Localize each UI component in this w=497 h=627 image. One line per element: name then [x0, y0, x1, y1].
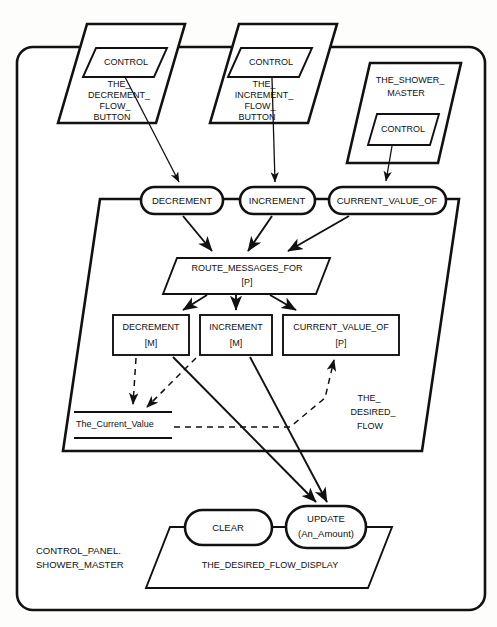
attribute-label: The_Current_Value: [76, 419, 154, 429]
op-current-value-of-label: CURRENT_VALUE_OF: [337, 195, 438, 206]
increment-button-name-3: FLOW_: [244, 101, 276, 111]
op-update-label-2: (An_Amount): [298, 528, 354, 539]
diagram-svg: CONTROL THE_ DECREMENT_ FLOW_ BUTTON CON…: [0, 0, 497, 627]
op-increment-label: INCREMENT: [249, 195, 306, 206]
desired-flow-name-1: THE_: [357, 393, 381, 403]
desired-flow-display-name: THE_DESIRED_FLOW_DISPLAY: [202, 560, 338, 570]
desired-flow-name-3: FLOW: [357, 421, 384, 431]
method-decrement-label-1: DECREMENT: [122, 322, 180, 332]
decrement-button-name-3: FLOW_: [99, 101, 131, 111]
increment-button-name-1: THE_: [252, 79, 276, 89]
op-clear-label: CLEAR: [212, 522, 244, 533]
decrement-button-inner-op-label: CONTROL: [104, 57, 148, 67]
router-label-2: [P]: [241, 277, 252, 287]
decrement-button-name-1: THE_: [107, 79, 131, 89]
shower-master-name-2: MASTER: [387, 88, 425, 98]
desired-flow-name-2: DESIRED_: [350, 407, 396, 417]
op-decrement-label: DECREMENT: [152, 195, 212, 206]
outer-system-label-1: CONTROL_PANEL.: [36, 545, 121, 556]
shower-master-inner-op-label: CONTROL: [381, 124, 425, 134]
increment-button-name-4: BUTTON: [239, 112, 276, 122]
method-current-value-of-label-2: [P]: [335, 338, 346, 348]
diagram-canvas: CONTROL THE_ DECREMENT_ FLOW_ BUTTON CON…: [0, 0, 497, 627]
method-increment-box[interactable]: [200, 315, 272, 355]
shower-master-name-1: THE_SHOWER_: [376, 75, 446, 85]
method-increment-label-2: [M]: [230, 338, 243, 348]
decrement-button-name-2: DECREMENT_: [88, 90, 151, 100]
increment-button-name-2: INCREMENT_: [235, 90, 294, 100]
method-increment-label-1: INCREMENT: [209, 322, 263, 332]
increment-button-inner-op-label: CONTROL: [249, 57, 293, 67]
op-update-label-1: UPDATE: [307, 513, 345, 524]
method-decrement-box[interactable]: [113, 315, 189, 355]
decrement-button-name-4: BUTTON: [94, 112, 131, 122]
method-current-value-of-box[interactable]: [283, 315, 399, 355]
router-label-1: ROUTE_MESSAGES_FOR: [191, 263, 303, 273]
outer-system-label-2: SHOWER_MASTER: [36, 559, 124, 570]
method-current-value-of-label-1: CURRENT_VALUE_OF: [293, 322, 389, 332]
method-decrement-label-2: [M]: [145, 338, 158, 348]
